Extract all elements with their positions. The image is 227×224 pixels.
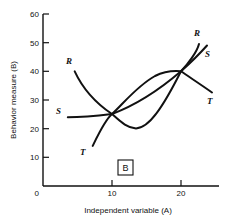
y-axis-title: Behavior measure (B): [9, 61, 18, 139]
panel-label-group: B: [118, 160, 133, 175]
x-tick-label-20: 20: [177, 189, 186, 198]
chart-svg: 60 50 40 30 20 10 0 10 20 R R S: [0, 0, 227, 224]
y-tick-label-60: 60: [30, 10, 39, 19]
x-axis-ticks: [112, 180, 181, 186]
curve-T: [93, 71, 212, 146]
panel-label-text: B: [122, 163, 128, 173]
curve-label-R-end: R: [193, 28, 200, 38]
y-tick-label-50: 50: [30, 39, 39, 48]
x-tick-label-10: 10: [108, 189, 117, 198]
x-axis-tick-labels: 10 20: [108, 189, 186, 198]
chart-figure: 60 50 40 30 20 10 0 10 20 R R S: [0, 0, 227, 224]
y-tick-label-0: 0: [35, 189, 40, 198]
y-axis-ticks: [43, 14, 49, 157]
curve-label-T-end: T: [207, 96, 213, 106]
curve-label-T-start: T: [80, 147, 86, 157]
x-axis-title: Independent variable (A): [84, 206, 172, 215]
curve-S: [68, 46, 207, 118]
y-axis-tick-labels: 60 50 40 30 20 10 0: [30, 10, 39, 198]
curve-label-R-start: R: [65, 56, 72, 66]
curve-label-S-start: S: [56, 106, 61, 116]
y-tick-label-40: 40: [30, 67, 39, 76]
curve-label-S-end: S: [205, 49, 210, 59]
y-tick-label-20: 20: [30, 125, 39, 134]
y-tick-label-30: 30: [30, 96, 39, 105]
y-tick-label-10: 10: [30, 153, 39, 162]
curve-group: [68, 44, 212, 146]
